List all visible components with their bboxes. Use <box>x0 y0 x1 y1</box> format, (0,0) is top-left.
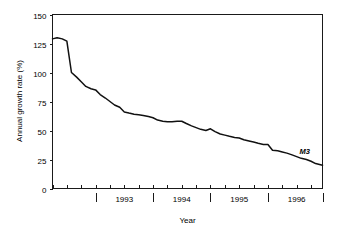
x-tick-label: 1995 <box>230 195 248 204</box>
y-tick-label: 125 <box>33 41 47 50</box>
x-tick-label: 1996 <box>288 195 306 204</box>
x-tick-label: 1993 <box>115 195 133 204</box>
plot-frame <box>53 15 323 189</box>
series-line-m3 <box>53 38 323 166</box>
x-axis-title: Year <box>179 216 196 225</box>
chart-figure: 0255075100125150 1993199419951996 M3 Yea… <box>0 0 340 231</box>
y-tick-label: 50 <box>38 128 47 137</box>
x-tick-label: 1994 <box>173 195 191 204</box>
y-tick-label: 0 <box>42 186 47 195</box>
y-tick-label: 150 <box>33 12 47 21</box>
y-tick-label: 75 <box>38 99 47 108</box>
m3-growth-line-chart: 0255075100125150 1993199419951996 M3 Yea… <box>0 0 340 231</box>
y-axis-title: Annual growth rate (%) <box>15 60 24 142</box>
x-axis-minor-ticks <box>54 185 312 189</box>
y-tick-label: 100 <box>33 70 47 79</box>
series-label-m3: M3 <box>300 147 311 156</box>
y-axis-tick-labels: 0255075100125150 <box>33 12 47 195</box>
y-tick-label: 25 <box>38 157 47 166</box>
